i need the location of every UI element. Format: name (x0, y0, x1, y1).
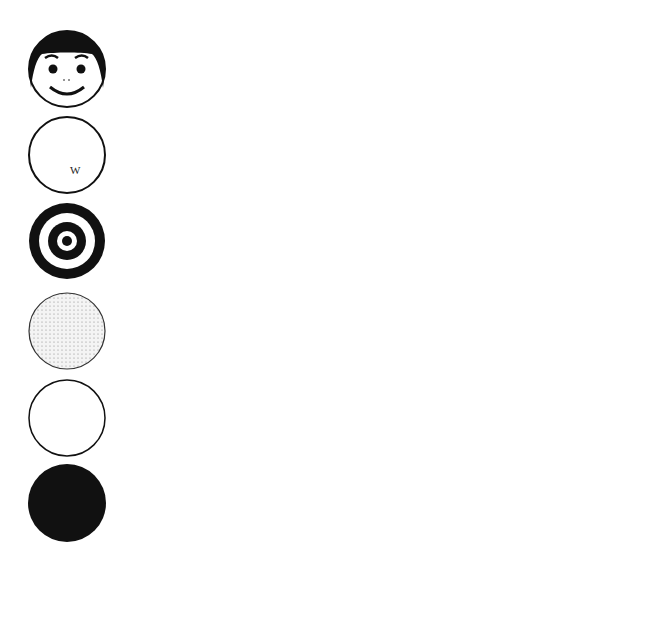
white-circle-icon (29, 380, 105, 456)
newsprint-icon: W (29, 117, 105, 193)
category-icons: W (28, 31, 106, 542)
dotted-circle-icon (29, 293, 105, 369)
svg-text:W: W (70, 164, 81, 176)
black-circle-icon (28, 464, 106, 542)
bullseye-icon (29, 203, 105, 279)
fixation-bar-chart: W (0, 0, 651, 617)
face-icon (29, 31, 105, 107)
